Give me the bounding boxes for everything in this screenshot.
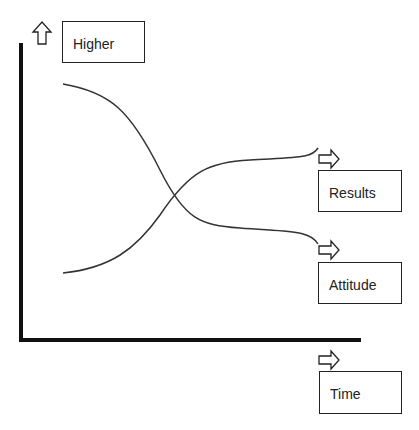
results-label: Results bbox=[329, 185, 376, 201]
results-curve bbox=[63, 148, 318, 273]
time-arrow-icon bbox=[319, 351, 339, 369]
time-label-box: Time bbox=[319, 371, 402, 414]
up-arrow-icon bbox=[33, 22, 51, 44]
attitude-label: Attitude bbox=[329, 277, 376, 293]
time-label: Time bbox=[330, 386, 361, 402]
results-label-box: Results bbox=[318, 170, 402, 212]
higher-label: Higher bbox=[73, 36, 114, 52]
attitude-arrow-icon bbox=[319, 241, 339, 259]
results-arrow-icon bbox=[319, 150, 339, 168]
higher-label-box: Higher bbox=[62, 21, 145, 63]
attitude-label-box: Attitude bbox=[318, 262, 402, 304]
diagram-canvas bbox=[0, 0, 419, 430]
attitude-curve bbox=[63, 84, 318, 244]
